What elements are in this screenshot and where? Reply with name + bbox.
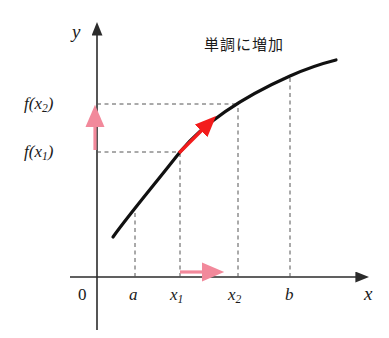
x-tick-label-x1: x1: [170, 286, 183, 305]
x-tick-x2-sub: 2: [236, 293, 242, 306]
tangent-direction-arrow: [179, 128, 204, 153]
y-tick-label-fx1: f(x1): [24, 143, 53, 162]
chart-title: 単調に増加: [204, 33, 284, 54]
y-tick-fx1-main: f(x: [24, 142, 42, 161]
x-tick-label-a: a: [129, 286, 138, 305]
function-curve: [113, 60, 336, 237]
x-tick-x1-main: x: [170, 285, 178, 304]
x-axis-label: x: [364, 284, 372, 303]
y-tick-fx2-main: f(x: [24, 94, 42, 113]
y-tick-fx1-tail: ): [48, 142, 54, 161]
x-tick-b-main: b: [285, 285, 294, 304]
figure-canvas: [0, 0, 389, 338]
y-tick-fx2-tail: ): [48, 94, 54, 113]
x-tick-label-x2: x2: [228, 286, 241, 305]
y-axis-label: y: [72, 22, 80, 41]
origin-label: 0: [78, 286, 87, 303]
x-tick-x2-main: x: [228, 285, 236, 304]
x-tick-x1-sub: 1: [178, 293, 184, 306]
x-tick-label-b: b: [285, 286, 294, 305]
x-tick-a-main: a: [129, 285, 138, 304]
y-tick-label-fx2: f(x2): [24, 95, 53, 114]
monotonic-increasing-figure: 単調に増加 y x 0 f(x2) f(x1) a x1 x2 b: [0, 0, 389, 338]
